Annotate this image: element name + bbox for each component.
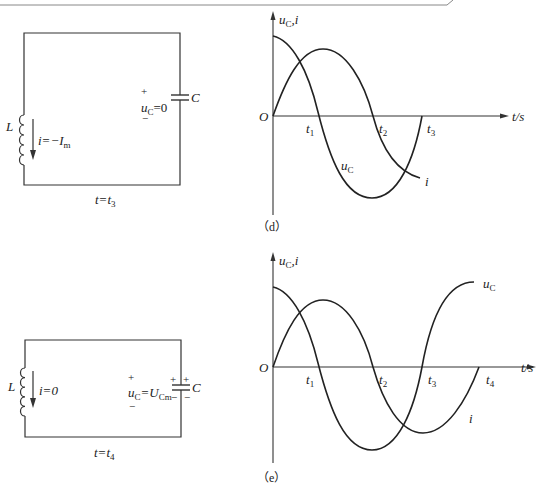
tick-t2-e: t2 xyxy=(379,373,387,389)
y-axis-suffix-e: ,i xyxy=(292,253,299,268)
voltage-value-e: =U xyxy=(141,385,159,400)
current-arrow-icon-d xyxy=(30,150,36,160)
y-axis-label-d: uC,i xyxy=(279,13,298,29)
curve-label-uc-d: uC xyxy=(341,159,354,175)
voltage-minus-e: − xyxy=(129,401,135,412)
y-axis-arrow-icon-e xyxy=(271,252,276,261)
plate-plus-right-e: + xyxy=(183,374,189,385)
inductor-label-e: L xyxy=(8,380,15,393)
x-axis-arrow-icon-d xyxy=(500,114,509,119)
time-label-d: t=t3 xyxy=(95,193,116,209)
time-sub-e: 4 xyxy=(110,452,115,462)
x-axis-label-d: t/s xyxy=(512,110,524,123)
x-axis-label-e: t/s xyxy=(521,361,533,374)
voltage-minus-d: − xyxy=(142,113,148,124)
voltage-plus-e: + xyxy=(128,372,134,383)
tick-t2-d: t2 xyxy=(379,122,387,138)
y-axis-suffix-d: ,i xyxy=(292,12,299,27)
tick-t1-d: t1 xyxy=(306,122,314,138)
tick-t3-d-sub: 3 xyxy=(431,128,436,138)
tick-t3-e-sub: 3 xyxy=(432,379,437,389)
time-value-d: t=t xyxy=(95,192,111,207)
page-top-border xyxy=(0,0,453,5)
y-axis-label-e: uC,i xyxy=(279,254,298,270)
tick-t3-d: t3 xyxy=(427,122,435,138)
time-label-e: t=t4 xyxy=(94,446,115,462)
time-value-e: t=t xyxy=(94,445,110,460)
voltage-plus-d: + xyxy=(141,86,147,97)
current-arrow-icon-e xyxy=(30,398,36,408)
caption-e: （e） xyxy=(257,472,286,484)
tick-t4-e: t4 xyxy=(486,373,494,389)
tick-t3-e: t3 xyxy=(428,373,436,389)
inductor-e-coil xyxy=(21,368,26,416)
curve-label-uc-e-sub: C xyxy=(490,283,496,293)
caption-d: （d） xyxy=(257,221,287,233)
tick-t1-e: t1 xyxy=(306,373,314,389)
tick-t1-e-sub: 1 xyxy=(310,379,315,389)
circuit-e-wire xyxy=(25,340,181,385)
current-sub-d: m xyxy=(64,140,71,150)
plate-plus-left-e: + xyxy=(170,374,176,385)
capacitor-label-d: C xyxy=(191,91,200,104)
y-axis-arrow-icon-d xyxy=(271,11,276,20)
curve-label-i-d: i xyxy=(425,175,429,188)
tick-t4-e-sub: 4 xyxy=(490,379,495,389)
figure-canvas xyxy=(0,0,541,486)
capacitor-label-e: C xyxy=(192,381,201,394)
inductor-label-d: L xyxy=(6,120,13,133)
plate-minus-right-e: − xyxy=(184,392,190,403)
current-value-d: i=−I xyxy=(38,133,64,148)
curve-label-uc-e: uC xyxy=(483,277,496,293)
tick-t2-e-sub: 2 xyxy=(383,379,388,389)
voltage-value-d: =0 xyxy=(154,100,168,115)
chart-d xyxy=(271,11,510,215)
time-sub-d: 3 xyxy=(111,199,116,209)
inductor-d-coil xyxy=(20,115,25,165)
voltage-value-sub-e: Cm xyxy=(159,392,172,402)
curve-label-i-e: i xyxy=(469,412,473,425)
tick-t1-d-sub: 1 xyxy=(310,128,315,138)
chart-e xyxy=(271,252,537,463)
plate-minus-left-e: − xyxy=(171,392,177,403)
origin-label-d: O xyxy=(259,110,268,123)
curve-label-uc-d-sub: C xyxy=(348,165,354,175)
tick-t2-d-sub: 2 xyxy=(383,128,388,138)
current-label-e: i=0 xyxy=(39,384,58,397)
origin-label-e: O xyxy=(259,361,268,374)
current-label-d: i=−Im xyxy=(38,134,71,150)
